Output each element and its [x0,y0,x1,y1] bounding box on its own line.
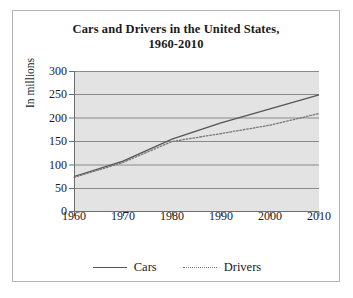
chart-legend: Cars Drivers [13,256,341,278]
y-tick-label-150: 150 [33,136,67,146]
x-tick-label-1970: 1970 [100,209,146,224]
x-tick-label-2000: 2000 [247,209,293,224]
legend-label-drivers: Drivers [224,260,262,275]
chart-container: Cars and Drivers in the United States, 1… [12,10,340,282]
y-tick-label-100: 100 [33,160,67,170]
y-axis-ticks [69,72,74,212]
x-tick-label-1980: 1980 [149,209,195,224]
x-tick-label-2010: 2010 [296,209,342,224]
legend-entry-drivers: Drivers [183,260,262,275]
legend-entry-cars: Cars [93,260,157,275]
plot-area-wrapper: In millions [13,11,341,283]
x-tick-label-1960: 1960 [51,209,97,224]
y-tick-label-300: 300 [33,66,67,76]
legend-label-cars: Cars [134,260,157,275]
legend-line-solid-icon [93,264,127,271]
y-tick-label-250: 250 [33,89,67,99]
y-tick-label-200: 200 [33,113,67,123]
legend-line-dotted-icon [183,264,217,271]
y-tick-label-50: 50 [33,183,67,193]
x-axis-tick-labels: 1960 1970 1980 1990 2000 2010 [13,209,341,227]
y-axis-tick-labels: 300 250 200 150 100 50 0 [29,11,67,283]
x-tick-label-1990: 1990 [198,209,244,224]
